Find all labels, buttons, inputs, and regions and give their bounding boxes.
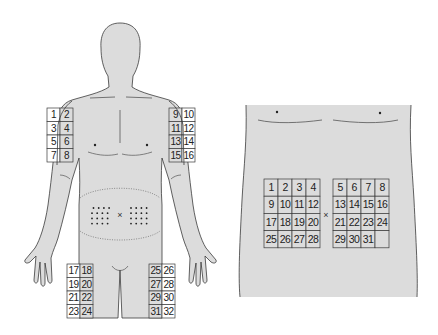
injection-site-number: 9 <box>268 198 274 210</box>
injection-site-number: 27 <box>151 279 162 290</box>
injection-site-number: 26 <box>164 265 175 276</box>
injection-site-number: 6 <box>351 181 357 193</box>
injection-site-number: 20 <box>82 279 93 290</box>
injection-site-number: 18 <box>280 216 291 228</box>
abdomen-dot <box>96 223 98 225</box>
abdomen-dot <box>135 223 137 225</box>
injection-site-number: 12 <box>184 123 195 134</box>
abdomen-dot <box>141 218 143 220</box>
injection-site-number: 10 <box>184 109 195 120</box>
injection-site-number: 18 <box>82 265 93 276</box>
abdomen-dot <box>135 212 137 214</box>
injection-site-number: 8 <box>379 181 385 193</box>
abdomen-dot <box>141 207 143 209</box>
injection-site-number: 15 <box>171 150 182 161</box>
injection-site-cell <box>375 231 389 248</box>
closeup-navel-marker: × <box>323 210 328 220</box>
injection-site-number: 28 <box>164 279 175 290</box>
injection-site-number: 21 <box>335 216 346 228</box>
injection-site-number: 23 <box>363 216 374 228</box>
abdomen-dot <box>146 212 148 214</box>
injection-site-number: 14 <box>184 136 195 147</box>
abdomen-dot <box>146 207 148 209</box>
injection-site-number: 3 <box>296 181 302 193</box>
injection-site-number: 16 <box>184 150 195 161</box>
injection-site-number: 4 <box>310 181 316 193</box>
injection-site-number: 30 <box>164 292 175 303</box>
abdomen-dot <box>107 223 109 225</box>
injection-site-number: 16 <box>377 198 388 210</box>
injection-site-number: 26 <box>280 233 291 245</box>
abdomen-dot <box>93 207 95 209</box>
abdomen-dot <box>103 207 105 209</box>
abdomen-dot <box>135 207 137 209</box>
abdomen-right-site-grid: 56781314151621222324293031 <box>333 179 389 248</box>
abdomen-dot <box>146 223 148 225</box>
abdomen-dot <box>146 218 148 220</box>
abdomen-dot <box>102 218 104 220</box>
closeup-nipple-left <box>276 111 278 113</box>
abdomen-dot <box>130 218 132 220</box>
abdomen-dot <box>91 223 93 225</box>
abdomen-dot <box>91 218 93 220</box>
injection-site-number: 31 <box>151 306 162 317</box>
injection-site-number: 25 <box>151 265 162 276</box>
injection-site-number: 29 <box>151 292 162 303</box>
left-upper-arm-site-grid: 12345678 <box>47 108 73 162</box>
injection-site-number: 17 <box>69 265 80 276</box>
injection-site-number: 23 <box>69 306 80 317</box>
navel-marker: × <box>117 210 122 220</box>
injection-site-number: 25 <box>266 233 277 245</box>
injection-site-number: 20 <box>308 216 319 228</box>
injection-site-number: 13 <box>171 136 182 147</box>
injection-site-number: 27 <box>294 233 305 245</box>
injection-site-number: 28 <box>308 233 319 245</box>
injection-site-number: 2 <box>282 181 288 193</box>
body-silhouette <box>25 23 216 318</box>
injection-site-number: 30 <box>349 233 360 245</box>
injection-site-number: 24 <box>377 216 388 228</box>
abdomen-dot <box>130 207 132 209</box>
abdomen-left-site-grid: 123491011121718192025262728 <box>264 179 320 248</box>
abdomen-dot <box>130 212 132 214</box>
right-upper-arm-site-grid: 910111213141516 <box>169 108 195 162</box>
injection-site-number: 10 <box>280 198 291 210</box>
injection-site-number: 15 <box>363 198 374 210</box>
injection-site-number: 11 <box>294 198 304 210</box>
abdomen-dot <box>141 212 143 214</box>
injection-site-number: 24 <box>82 306 93 317</box>
injection-site-number: 19 <box>294 216 305 228</box>
abdomen-dot <box>130 223 132 225</box>
abdomen-dot <box>141 223 143 225</box>
front-body-figure: × 12345678 910111213141516 1718192021222… <box>25 23 216 318</box>
injection-site-number: 31 <box>363 233 374 245</box>
abdomen-dot <box>107 212 109 214</box>
injection-site-number: 7 <box>365 181 371 193</box>
left-thigh-site-grid: 1718192021222324 <box>67 264 93 318</box>
abdomen-dot <box>135 218 137 220</box>
injection-site-number: 13 <box>335 198 346 210</box>
injection-site-number: 32 <box>164 306 175 317</box>
abdomen-dot <box>102 212 104 214</box>
abdomen-dot <box>102 223 104 225</box>
closeup-nipple-right <box>379 112 381 114</box>
abdomen-dot <box>108 207 110 209</box>
nipple-right <box>146 144 148 146</box>
nipple-left <box>94 144 96 146</box>
injection-site-diagram: × 12345678 910111213141516 1718192021222… <box>0 0 438 335</box>
abdomen-closeup: 123491011121718192025262728 567813141516… <box>239 105 417 297</box>
injection-site-number: 11 <box>171 123 181 134</box>
abdomen-dot <box>98 207 100 209</box>
injection-site-number: 12 <box>308 198 319 210</box>
injection-site-number: 29 <box>335 233 346 245</box>
right-thigh-site-grid: 2526272829303132 <box>149 264 175 318</box>
injection-site-number: 17 <box>266 216 277 228</box>
injection-site-number: 19 <box>69 279 80 290</box>
abdomen-dot <box>91 212 93 214</box>
abdomen-dot <box>96 218 98 220</box>
abdomen-dot <box>96 212 98 214</box>
injection-site-number: 22 <box>349 216 360 228</box>
abdomen-dot <box>107 218 109 220</box>
injection-site-number: 14 <box>349 198 360 210</box>
injection-site-number: 22 <box>82 292 93 303</box>
